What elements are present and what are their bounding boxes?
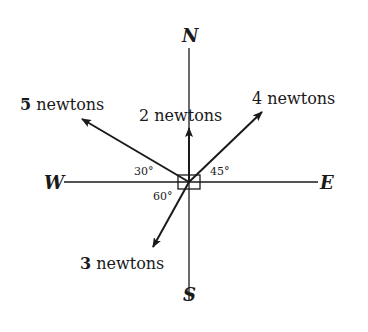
force-3n-unit: newtons (96, 254, 164, 273)
force-4n-unit: newtons (267, 89, 335, 108)
force-5n-magnitude: 5 (20, 95, 31, 114)
label-angle-45: 45° (210, 166, 230, 177)
label-force-2n: 2 newtons (139, 108, 222, 124)
force-4n-magnitude: 4 (252, 89, 262, 108)
diagram-canvas (0, 0, 368, 332)
force-2n-unit: newtons (154, 106, 222, 125)
force-diagram: N S E W 5 newtons 2 newtons 4 newtons 3 … (0, 0, 368, 332)
label-east: E (320, 174, 334, 192)
label-angle-60: 60° (153, 191, 173, 202)
label-force-5n: 5 newtons (20, 97, 104, 113)
label-force-4n: 4 newtons (252, 91, 335, 107)
force-5n-unit: newtons (36, 95, 104, 114)
force-3n-magnitude: 3 (80, 254, 91, 273)
force-2n-magnitude: 2 (139, 106, 149, 125)
label-west: W (44, 174, 64, 192)
label-north: N (182, 27, 198, 45)
label-south: S (183, 286, 196, 304)
label-angle-30: 30° (134, 166, 154, 177)
label-force-3n: 3 newtons (80, 256, 164, 272)
